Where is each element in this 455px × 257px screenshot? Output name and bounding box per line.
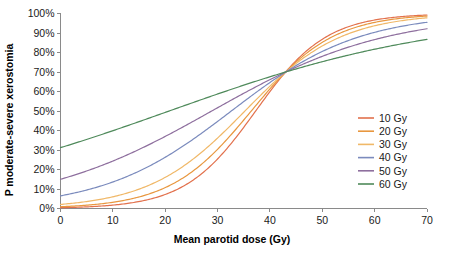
series-line-40-gy [61,22,428,196]
y-tick-label: 40% [33,124,54,136]
y-tick-label: 90% [33,27,54,39]
x-tick-label: 10 [107,214,119,226]
x-tick-label: 20 [159,214,171,226]
y-tick-label: 80% [33,46,54,58]
data-series-group [61,15,428,208]
legend-label-40-gy: 40 Gy [379,151,408,163]
series-line-10-gy [61,15,428,208]
series-line-50-gy [61,29,428,180]
x-tick-label: 40 [264,214,276,226]
x-tick-label: 70 [421,214,433,226]
legend-label-30-gy: 30 Gy [379,138,408,150]
y-axis: 0%10%20%30%40%50%60%70%80%90%100% [28,7,61,214]
x-axis: 010203040506070 [58,209,433,226]
y-tick-label: 0% [39,202,54,214]
y-tick-label: 10% [33,183,54,195]
xerostomia-dose-response-chart: 0%10%20%30%40%50%60%70%80%90%100% 010203… [0,0,455,257]
y-tick-label: 70% [33,66,54,78]
y-tick-label: 60% [33,85,54,97]
legend-label-50-gy: 50 Gy [379,165,408,177]
legend-label-10-gy: 10 Gy [379,112,408,124]
series-line-30-gy [61,18,428,205]
y-tick-label: 100% [28,7,55,19]
x-tick-label: 0 [58,214,64,226]
x-tick-label: 50 [316,214,328,226]
y-tick-label: 30% [33,144,54,156]
legend-label-20-gy: 20 Gy [379,125,408,137]
y-axis-title: P moderate-severe xerostomia [3,43,15,196]
x-axis-title: Mean parotid dose (Gy) [174,233,291,245]
y-tick-label: 50% [33,105,54,117]
x-tick-label: 30 [212,214,224,226]
y-tick-label: 20% [33,163,54,175]
chart-canvas: 0%10%20%30%40%50%60%70%80%90%100% 010203… [0,0,455,257]
x-tick-label: 60 [369,214,381,226]
legend-label-60-gy: 60 Gy [379,178,408,190]
chart-legend: 10 Gy20 Gy30 Gy40 Gy50 Gy60 Gy [358,112,408,190]
